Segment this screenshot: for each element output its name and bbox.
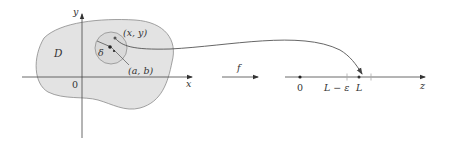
- region-label: D: [53, 47, 63, 59]
- inner-point: [113, 50, 115, 52]
- limit-label: L: [355, 82, 362, 93]
- limit-diagram: y x 0 D δ (x, y) (a, b) f 0 L − ε L z: [0, 0, 451, 151]
- center-point: [108, 45, 112, 49]
- delta-label: δ: [98, 47, 104, 58]
- lower-bound-label: L − ε: [323, 82, 349, 93]
- xy-point-label: (x, y): [123, 27, 147, 38]
- limit-point: [358, 76, 361, 79]
- y-axis-label: y: [72, 6, 79, 17]
- origin-label: 0: [72, 79, 78, 90]
- z-origin-point: [298, 75, 301, 78]
- x-axis-label: x: [186, 78, 192, 89]
- z-origin-label: 0: [297, 82, 303, 93]
- center-point-label: (a, b): [128, 65, 153, 76]
- z-axis-label: z: [419, 80, 426, 91]
- f-label: f: [236, 62, 242, 73]
